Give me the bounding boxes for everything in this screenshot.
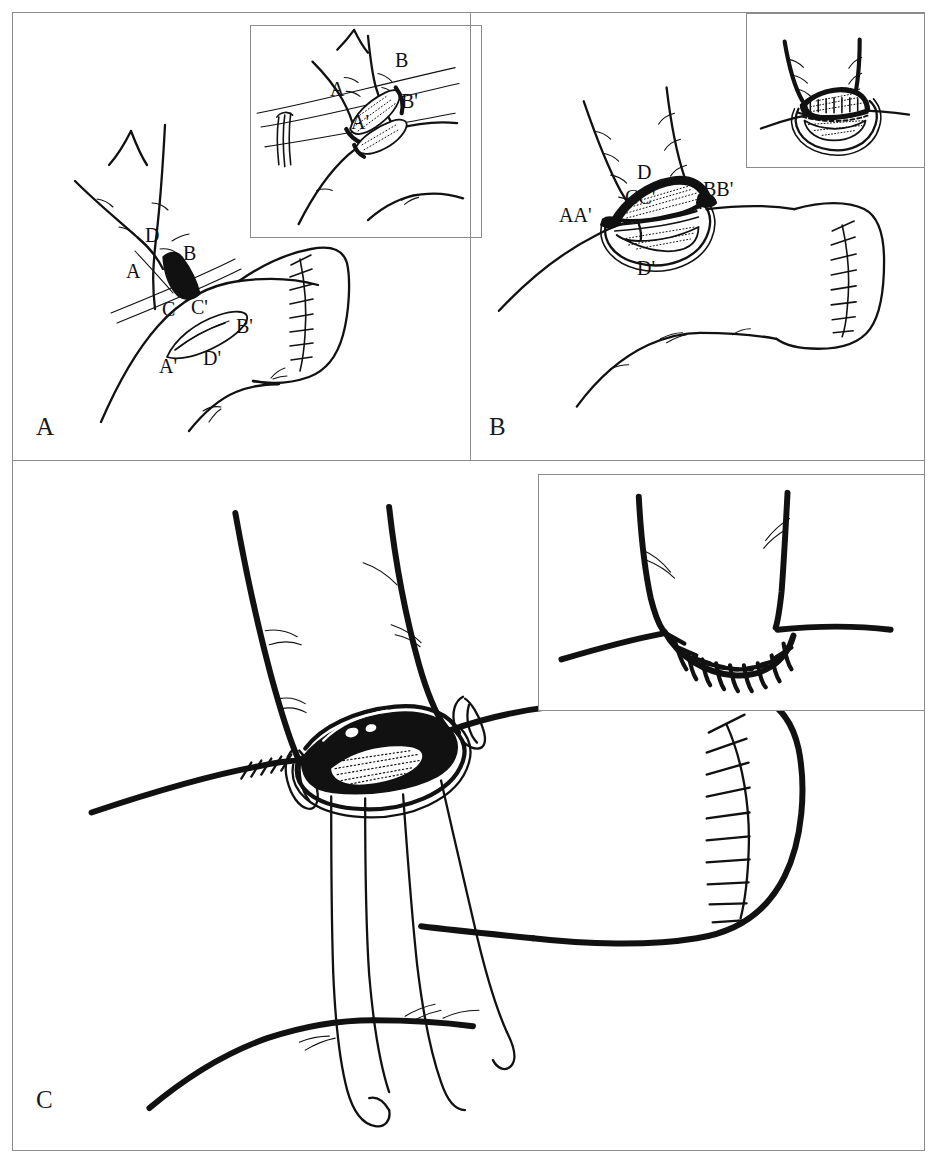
panel-letter-a: A: [36, 413, 55, 441]
label-a-inset-A: A: [330, 79, 344, 99]
label-a-inset-B: B: [395, 50, 408, 70]
label-a-B-prime: B': [236, 316, 253, 336]
panel-b-inset: [746, 13, 925, 168]
label-a-A-prime: A': [159, 356, 177, 376]
panel-c-inset-stitches: [667, 634, 792, 692]
label-b-CC-prime: CC': [625, 187, 655, 207]
panel-a: D B A C C' B' D' A': [13, 13, 470, 460]
panel-b-lumen-lower: [617, 227, 699, 251]
label-b-D-prime: D': [637, 258, 655, 278]
label-a-C: C: [162, 299, 175, 319]
label-a-inset-B-prime: B': [401, 91, 418, 111]
label-b-D: D: [637, 162, 651, 182]
figure-root: D B A C C' B' D' A': [0, 0, 939, 1176]
label-a-C-prime: C': [191, 297, 208, 317]
panel-c: C: [13, 460, 924, 1150]
label-b-BB-prime: BB': [703, 179, 733, 199]
panel-b: D CC' BB' AA' D': [470, 13, 924, 460]
graft-suture-line: [290, 255, 313, 371]
panel-b-graft-suture: [831, 221, 856, 337]
label-b-AA-prime: AA': [559, 205, 592, 225]
panel-c-graft-suture: [707, 715, 750, 923]
label-a-inset-A-prime: A': [351, 112, 369, 132]
panel-c-inset: [538, 474, 925, 711]
panel-letter-b: B: [489, 413, 506, 441]
panel-c-inset-drawing: [539, 475, 924, 710]
label-a-B: B: [183, 243, 196, 263]
label-a-D-prime: D': [203, 348, 221, 368]
panel-b-inset-drawing: [747, 14, 924, 167]
panel-a-inset: B A B' A': [250, 25, 482, 238]
label-a-D: D: [145, 225, 159, 245]
panel-letter-c: C: [36, 1086, 53, 1114]
label-a-A: A: [126, 261, 140, 281]
